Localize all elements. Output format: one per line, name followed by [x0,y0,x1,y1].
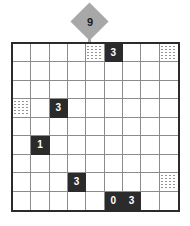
grid-cell-clue[interactable]: 0 [105,192,123,210]
grid-cell-empty[interactable] [141,192,159,210]
puzzle-board: 9 331303 [0,0,190,226]
grid-cell-empty[interactable] [105,173,123,191]
grid-cell-empty[interactable] [160,136,178,154]
grid-cell-empty[interactable] [86,136,104,154]
water-icon [161,175,177,188]
grid-cell-empty[interactable] [13,192,31,210]
grid-cell-empty[interactable] [160,155,178,173]
grid-cell-empty[interactable] [86,155,104,173]
grid-cell-empty[interactable] [13,62,31,80]
grid-cell-empty[interactable] [68,155,86,173]
grid-cell-empty[interactable] [123,44,141,62]
clue-value: 1 [31,136,48,153]
grid-row: 3 [13,173,178,191]
grid-cell-empty[interactable] [13,44,31,62]
grid-cell-empty[interactable] [31,44,49,62]
grid-cell-empty[interactable] [86,192,104,210]
grid-cell-empty[interactable] [68,99,86,117]
grid-cell-empty[interactable] [123,136,141,154]
grid-cell-empty[interactable] [141,155,159,173]
grid-cell-empty[interactable] [50,118,68,136]
clue-value: 3 [50,99,67,116]
grid-cell-empty[interactable] [86,99,104,117]
clue-value: 3 [105,44,122,61]
grid-cell-clue[interactable]: 3 [105,44,123,62]
grid-cell-empty[interactable] [123,173,141,191]
grid-cell-empty[interactable] [13,155,31,173]
grid-cell-empty[interactable] [68,44,86,62]
grid-cell-empty[interactable] [160,81,178,99]
grid-cell-empty[interactable] [141,136,159,154]
clue-value: 0 [105,192,122,210]
grid-row: 3 [13,44,178,62]
grid-cell-empty[interactable] [86,62,104,80]
grid-cell-empty[interactable] [123,155,141,173]
grid-cell-empty[interactable] [31,62,49,80]
grid-cell-empty[interactable] [31,173,49,191]
grid-cell-empty[interactable] [50,44,68,62]
grid-cell-empty[interactable] [105,99,123,117]
grid-cell-empty[interactable] [160,99,178,117]
grid-cell-empty[interactable] [68,81,86,99]
grid-cell-empty[interactable] [160,62,178,80]
grid-cell-water[interactable] [160,44,178,62]
grid-cell-empty[interactable] [50,81,68,99]
grid-row [13,155,178,173]
grid-cell-empty[interactable] [31,192,49,210]
grid-cell-empty[interactable] [141,81,159,99]
grid-cell-clue[interactable]: 3 [68,173,86,191]
grid-cell-empty[interactable] [141,99,159,117]
grid-cell-empty[interactable] [86,81,104,99]
grid-cell-empty[interactable] [13,81,31,99]
grid-cell-empty[interactable] [123,118,141,136]
grid-row [13,118,178,136]
grid-cell-empty[interactable] [50,62,68,80]
grid-row [13,81,178,99]
grid-cell-empty[interactable] [50,173,68,191]
grid-row: 1 [13,136,178,154]
grid-cell-empty[interactable] [13,136,31,154]
grid-cell-empty[interactable] [68,62,86,80]
grid-cell-empty[interactable] [105,155,123,173]
grid-cell-empty[interactable] [68,118,86,136]
grid-cell-empty[interactable] [105,118,123,136]
grid-cell-empty[interactable] [160,118,178,136]
clue-value: 3 [123,192,140,210]
grid-row [13,62,178,80]
grid-cell-empty[interactable] [31,81,49,99]
grid-cell-empty[interactable] [50,192,68,210]
grid-cell-water[interactable] [86,44,104,62]
grid-cell-empty[interactable] [141,62,159,80]
grid-cell-empty[interactable] [141,44,159,62]
grid-cell-empty[interactable] [50,155,68,173]
grid-cell-clue[interactable]: 3 [123,192,141,210]
water-icon [87,46,102,59]
grid-row: 3 [13,99,178,117]
grid-cell-empty[interactable] [123,62,141,80]
grid-cell-empty[interactable] [141,173,159,191]
grid-cell-empty[interactable] [31,118,49,136]
grid-cell-clue[interactable]: 3 [50,99,68,117]
grid-row: 03 [13,192,178,210]
puzzle-grid[interactable]: 331303 [11,42,180,212]
grid-cell-empty[interactable] [105,136,123,154]
grid-cell-empty[interactable] [86,118,104,136]
grid-cell-empty[interactable] [141,118,159,136]
grid-cell-water[interactable] [13,99,31,117]
clue-value: 3 [68,173,85,190]
grid-cell-empty[interactable] [13,118,31,136]
grid-cell-empty[interactable] [68,136,86,154]
grid-cell-clue[interactable]: 1 [31,136,49,154]
grid-cell-empty[interactable] [160,192,178,210]
grid-cell-water[interactable] [160,173,178,191]
grid-cell-empty[interactable] [105,81,123,99]
grid-cell-empty[interactable] [86,173,104,191]
grid-cell-empty[interactable] [123,81,141,99]
grid-cell-empty[interactable] [31,155,49,173]
grid-cell-empty[interactable] [105,62,123,80]
grid-cell-empty[interactable] [13,173,31,191]
grid-cell-empty[interactable] [123,99,141,117]
grid-cell-empty[interactable] [68,192,86,210]
grid-cell-empty[interactable] [50,136,68,154]
grid-cell-empty[interactable] [31,99,49,117]
